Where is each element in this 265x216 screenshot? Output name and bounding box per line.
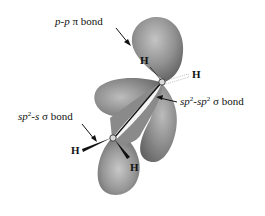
sigma-cc-rest: σ bond bbox=[210, 95, 244, 107]
pi-bond-label-pp: p-p bbox=[54, 15, 70, 27]
sigma-cc-sp1: sp bbox=[180, 95, 190, 107]
carbon-atom-upper bbox=[159, 79, 165, 85]
pi-bond-label-rest: π bond bbox=[70, 15, 104, 27]
h-atom-upper-right: H bbox=[192, 68, 201, 80]
pi-bond-label: p-p π bond bbox=[54, 15, 103, 27]
h-atom-lower-left: H bbox=[71, 144, 80, 156]
ethylene-orbital-diagram: H H H H p-p π bond sp2-sp2 σ bond sp2-s … bbox=[0, 0, 265, 216]
h-atom-upper-left: H bbox=[140, 54, 149, 66]
sigma-ch-s: -s bbox=[31, 110, 39, 122]
pi-lobe-upper-right bbox=[132, 17, 183, 82]
sigma-ch-sp: sp bbox=[18, 110, 28, 122]
carbon-atom-lower bbox=[110, 135, 116, 141]
pi-bond-arrowhead bbox=[124, 39, 131, 46]
sigma-ch-bond-label: sp2-s σ bond bbox=[18, 110, 73, 122]
sigma-cc-bond-label: sp2-sp2 σ bond bbox=[180, 95, 244, 107]
sigma-cc-sp2: -sp bbox=[193, 95, 207, 107]
h-atom-lower-right: H bbox=[130, 161, 139, 173]
sigma-ch-rest: σ bond bbox=[39, 110, 73, 122]
